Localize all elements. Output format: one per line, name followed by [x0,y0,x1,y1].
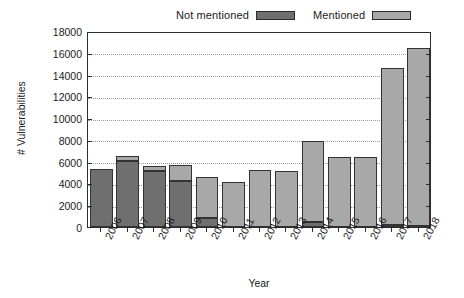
bar-group-2012 [249,32,272,227]
bar-group-2006 [90,32,113,227]
y-axis-tick-mark [87,163,92,164]
y-axis-tick-mark [426,163,431,164]
x-axis-tick-mark [180,228,181,232]
bar-segment [381,68,404,225]
y-axis-tick-labels: 0200040006000800010000120001400016000180… [32,32,82,228]
y-axis-title: # Vulnerabilities [15,38,27,198]
y-axis-tick-label: 4000 [38,179,82,189]
y-axis-tick-label: 8000 [38,136,82,146]
y-axis-tick-mark [87,76,92,77]
legend-label-mentioned: Mentioned [313,9,365,22]
y-axis-tick-mark [87,97,92,98]
y-axis-tick-mark [426,119,431,120]
bar-group-2008 [143,32,166,227]
x-axis-tick-mark [100,228,101,232]
y-axis-tick-mark [426,76,431,77]
x-axis-tick-mark [391,228,392,232]
x-axis-tick-mark [365,228,366,232]
bar-segment [196,177,219,218]
x-axis-tick-mark [285,228,286,232]
y-axis-tick-mark [426,206,431,207]
x-axis-tick-mark [153,228,154,232]
y-axis-tick-mark [87,54,92,55]
y-axis-tick-mark [87,141,92,142]
x-axis-ticks: 2006200720082009201020112012201320142015… [87,228,431,274]
bar-segment [328,157,351,227]
bar-segment [116,156,139,160]
bar-segment [116,161,139,227]
y-axis-tick-label: 18000 [38,27,82,37]
x-axis-tick-mark [127,228,128,232]
bar-segment [169,165,192,181]
bar-group-2017 [381,32,404,227]
x-axis-tick-mark [312,228,313,232]
bar-segment [354,157,377,227]
bar-group-2014 [302,32,325,227]
x-axis-tick-mark [206,228,207,232]
bar-segment [90,169,113,227]
y-axis-tick-mark [426,141,431,142]
bar-group-2016 [354,32,377,227]
y-axis-tick-label: 2000 [38,201,82,211]
x-axis-tick-mark [338,228,339,232]
legend-entry-mentioned: Mentioned [313,9,411,22]
legend-label-not-mentioned: Not mentioned [176,9,249,22]
bar-group-2010 [196,32,219,227]
x-axis-title: Year [87,277,431,289]
legend-entry-not-mentioned: Not mentioned [176,9,295,22]
x-axis-tick-mark [233,228,234,232]
x-axis-tick-mark [259,228,260,232]
vulnerabilities-by-year-chart: Not mentioned Mentioned 0200040006000800… [0,0,464,298]
y-axis-tick-label: 12000 [38,92,82,102]
bar-group-2009 [169,32,192,227]
y-axis-tick-mark [87,206,92,207]
y-axis-tick-mark [87,119,92,120]
bar-group-2013 [275,32,298,227]
bar-group-2018 [407,32,430,227]
legend-swatch-mentioned [372,11,411,20]
plot-area [87,32,431,228]
bar-group-2007 [116,32,139,227]
bar-group-2011 [222,32,245,227]
y-axis-tick-mark [426,54,431,55]
bar-group-2015 [328,32,351,227]
x-axis-tick-mark [418,228,419,232]
legend-swatch-not-mentioned [256,11,295,20]
bar-segment [143,166,166,171]
y-axis-tick-mark [87,184,92,185]
y-axis-tick-label: 6000 [38,158,82,168]
y-axis-tick-label: 16000 [38,49,82,59]
y-axis-tick-label: 0 [38,223,82,233]
y-axis-tick-label: 10000 [38,114,82,124]
bar-segment [302,141,325,222]
y-axis-tick-mark [426,97,431,98]
y-axis-tick-mark [426,184,431,185]
y-axis-tick-label: 14000 [38,71,82,81]
